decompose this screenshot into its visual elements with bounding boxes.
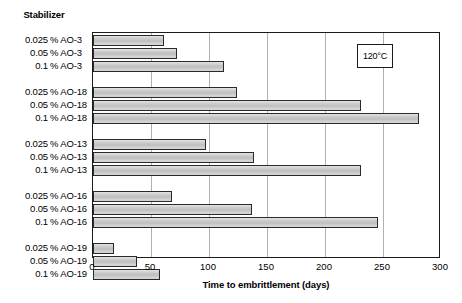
bar-chart: Stabilizer 0.025% AO-30.05% AO-30.1% AO-… — [0, 0, 462, 303]
label-concentration: 0.025 — [25, 190, 48, 201]
label-concentration: 0.1 — [35, 60, 48, 71]
label-concentration: 0.1 — [35, 164, 48, 175]
label-stabilizer: % AO-18 — [50, 112, 87, 123]
bar — [93, 35, 164, 46]
x-tick-label: 150 — [246, 261, 286, 273]
label-stabilizer: % AO-3 — [50, 34, 82, 45]
bar — [93, 61, 224, 72]
x-tick-label: 0 — [72, 261, 112, 273]
y-axis-label: 0.025% AO-18 — [0, 86, 88, 97]
bar-row — [93, 191, 441, 202]
x-tick-label: 100 — [188, 261, 228, 273]
label-stabilizer: % AO-16 — [50, 216, 87, 227]
label-concentration: 0.025 — [25, 86, 48, 97]
bar — [93, 113, 419, 124]
y-axis-label: 0.025% AO-3 — [0, 34, 88, 45]
y-axis-label: 0.1% AO-18 — [0, 112, 88, 123]
y-axis-label: 0.025% AO-16 — [0, 190, 88, 201]
label-stabilizer: % AO-13 — [50, 151, 87, 162]
bar — [93, 152, 254, 163]
label-stabilizer: % AO-13 — [50, 138, 87, 149]
label-stabilizer: % AO-13 — [50, 164, 87, 175]
bar-row — [93, 87, 441, 98]
x-tick-label: 300 — [420, 261, 460, 273]
label-stabilizer: % AO-18 — [50, 99, 87, 110]
bar — [93, 139, 206, 150]
y-axis-label: 0.025% AO-19 — [0, 242, 88, 253]
bar-row — [93, 139, 441, 150]
y-axis-label: 0.1% AO-13 — [0, 164, 88, 175]
y-axis-label: 0.05% AO-18 — [0, 99, 88, 110]
bar — [93, 217, 378, 228]
bar-row — [93, 243, 441, 254]
bar — [93, 243, 114, 254]
bar — [93, 87, 237, 98]
x-tick-label: 200 — [304, 261, 344, 273]
bar — [93, 191, 172, 202]
y-axis-labels: 0.025% AO-30.05% AO-30.1% AO-30.025% AO-… — [0, 32, 88, 258]
label-concentration: 0.025 — [25, 34, 48, 45]
label-stabilizer: % AO-3 — [50, 47, 82, 58]
bar — [93, 204, 252, 215]
y-axis-label: 0.05% AO-13 — [0, 151, 88, 162]
bar-row — [93, 100, 441, 111]
label-concentration: 0.05 — [30, 99, 48, 110]
label-concentration: 0.1 — [35, 216, 48, 227]
bar — [93, 165, 361, 176]
label-concentration: 0.05 — [30, 203, 48, 214]
x-axis-ticks: 050100150200250300 — [0, 261, 462, 275]
bar-row — [93, 217, 441, 228]
label-concentration: 0.025 — [25, 242, 48, 253]
label-stabilizer: % AO-16 — [50, 190, 87, 201]
bar — [93, 100, 361, 111]
bar — [93, 48, 177, 59]
bar-row — [93, 204, 441, 215]
bar-row — [93, 113, 441, 124]
category-header: Stabilizer — [0, 9, 88, 20]
y-axis-label: 0.1% AO-3 — [0, 60, 88, 71]
bar-row — [93, 165, 441, 176]
x-tick-label: 250 — [362, 261, 402, 273]
y-axis-label: 0.1% AO-16 — [0, 216, 88, 227]
label-concentration: 0.025 — [25, 138, 48, 149]
x-tick-label: 50 — [130, 261, 170, 273]
bar-row — [93, 152, 441, 163]
label-concentration: 0.1 — [35, 112, 48, 123]
label-concentration: 0.05 — [30, 47, 48, 58]
y-axis-label: 0.025% AO-13 — [0, 138, 88, 149]
label-stabilizer: % AO-19 — [50, 242, 87, 253]
x-axis-title: Time to embrittlement (days) — [92, 279, 440, 290]
label-stabilizer: % AO-3 — [50, 60, 82, 71]
y-axis-label: 0.05% AO-16 — [0, 203, 88, 214]
temperature-annotation: 120°C — [357, 44, 393, 68]
y-axis-label: 0.05% AO-3 — [0, 47, 88, 58]
label-stabilizer: % AO-18 — [50, 86, 87, 97]
label-concentration: 0.05 — [30, 151, 48, 162]
label-stabilizer: % AO-16 — [50, 203, 87, 214]
